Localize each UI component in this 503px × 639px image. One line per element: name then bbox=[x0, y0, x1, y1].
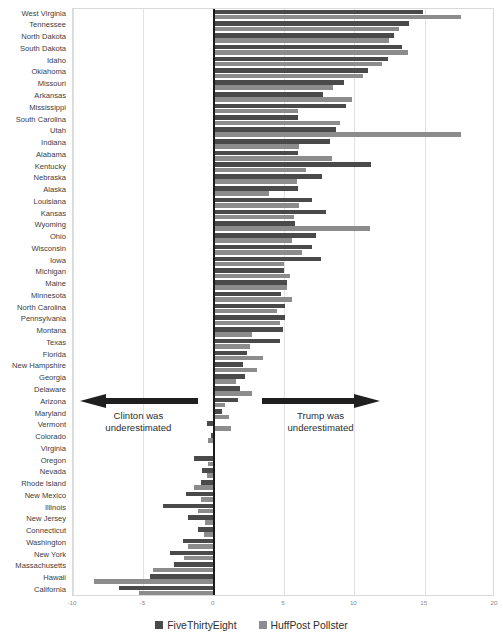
bar-fivethirtyeight bbox=[214, 80, 345, 85]
bar-huffpost-pollster bbox=[214, 426, 231, 431]
bar-huffpost-pollster bbox=[214, 121, 341, 126]
y-axis-label: Colorado bbox=[35, 433, 66, 441]
bar-row bbox=[73, 103, 493, 115]
bar-fivethirtyeight bbox=[214, 162, 372, 167]
bar-row bbox=[73, 44, 493, 56]
y-axis-label: North Carolina bbox=[17, 304, 66, 312]
bar-huffpost-pollster bbox=[214, 250, 303, 255]
bar-huffpost-pollster bbox=[214, 356, 263, 361]
bar-huffpost-pollster bbox=[214, 379, 237, 384]
y-axis-label: New Jersey bbox=[26, 515, 66, 523]
bar-fivethirtyeight bbox=[214, 221, 296, 226]
bar-huffpost-pollster bbox=[214, 144, 300, 149]
bar-huffpost-pollster bbox=[214, 62, 383, 67]
bar-huffpost-pollster bbox=[214, 368, 258, 373]
x-tick-label--5: -5 bbox=[140, 599, 146, 606]
plot-area: Clinton was underestimated Trump was und… bbox=[72, 8, 494, 596]
bar-row bbox=[73, 197, 493, 209]
legend-swatch-fivethirtyeight bbox=[155, 621, 163, 629]
bar-row bbox=[73, 68, 493, 80]
bar-huffpost-pollster bbox=[214, 297, 293, 302]
x-tick-label-20: 20 bbox=[491, 599, 498, 606]
bar-fivethirtyeight bbox=[214, 257, 321, 262]
bar-fivethirtyeight bbox=[214, 104, 346, 109]
bar-huffpost-pollster bbox=[214, 238, 293, 243]
bar-fivethirtyeight bbox=[188, 515, 213, 520]
bar-row bbox=[73, 538, 493, 550]
bar-fivethirtyeight bbox=[214, 92, 324, 97]
y-axis-label: Rhode Island bbox=[21, 480, 66, 488]
bar-row bbox=[73, 115, 493, 127]
y-axis-label: Texas bbox=[46, 339, 66, 347]
y-axis-label: Nebraska bbox=[34, 174, 67, 182]
bar-huffpost-pollster bbox=[214, 226, 370, 231]
y-axis-label: Wisconsin bbox=[31, 245, 66, 253]
y-axis-label: Alabama bbox=[36, 151, 66, 159]
bar-fivethirtyeight bbox=[214, 233, 317, 238]
y-axis-label: Maryland bbox=[35, 410, 66, 418]
annotation-line-2: underestimated bbox=[80, 422, 197, 434]
y-axis-label: Hawaii bbox=[43, 574, 66, 582]
bar-row bbox=[73, 374, 493, 386]
bar-huffpost-pollster bbox=[214, 191, 269, 196]
bar-fivethirtyeight bbox=[214, 374, 245, 379]
x-axis: -10-505101520 bbox=[72, 597, 494, 611]
bar-row bbox=[73, 350, 493, 362]
y-axis-label: Michigan bbox=[36, 268, 66, 276]
bar-huffpost-pollster bbox=[184, 556, 214, 561]
bar-row bbox=[73, 291, 493, 303]
bar-huffpost-pollster bbox=[198, 509, 213, 514]
legend-label: HuffPost Pollster bbox=[271, 620, 348, 631]
bar-fivethirtyeight bbox=[186, 492, 214, 497]
bar-fivethirtyeight bbox=[194, 456, 214, 461]
bar-huffpost-pollster bbox=[94, 579, 214, 584]
bar-fivethirtyeight bbox=[214, 10, 424, 15]
y-axis-label: Indiana bbox=[41, 139, 66, 147]
bar-row bbox=[73, 315, 493, 327]
bar-fivethirtyeight bbox=[150, 574, 213, 579]
annotation-line-2: underestimated bbox=[259, 422, 383, 434]
bar-row bbox=[73, 80, 493, 92]
bar-huffpost-pollster bbox=[214, 50, 408, 55]
bar-fivethirtyeight bbox=[214, 304, 286, 309]
bar-row bbox=[73, 56, 493, 68]
legend: FiveThirtyEightHuffPost Pollster bbox=[0, 616, 503, 634]
y-axis-label: New York bbox=[34, 551, 66, 559]
legend-item[interactable]: FiveThirtyEight bbox=[155, 620, 236, 631]
legend-item[interactable]: HuffPost Pollster bbox=[259, 620, 348, 631]
y-axis-label: Missouri bbox=[38, 80, 66, 88]
bar-row bbox=[73, 268, 493, 280]
y-axis-label: Louisiana bbox=[33, 198, 66, 206]
bar-row bbox=[73, 327, 493, 339]
left-arrow-icon bbox=[80, 394, 197, 408]
bar-row bbox=[73, 303, 493, 315]
bar-fivethirtyeight bbox=[214, 115, 298, 120]
bar-fivethirtyeight bbox=[198, 527, 213, 532]
bar-row bbox=[73, 491, 493, 503]
bar-row bbox=[73, 209, 493, 221]
y-axis-label: South Carolina bbox=[16, 116, 66, 124]
bar-huffpost-pollster bbox=[214, 132, 462, 137]
bar-fivethirtyeight bbox=[163, 504, 214, 509]
bar-huffpost-pollster bbox=[214, 332, 252, 337]
bar-huffpost-pollster bbox=[214, 97, 352, 102]
bar-row bbox=[73, 585, 493, 596]
y-axis-category-labels: West VirginiaTennesseeNorth DakotaSouth … bbox=[0, 8, 69, 596]
bar-row bbox=[73, 338, 493, 350]
y-axis-label: Delaware bbox=[34, 386, 66, 394]
bar-huffpost-pollster bbox=[188, 544, 213, 549]
y-axis-label: Kansas bbox=[41, 210, 66, 218]
bar-fivethirtyeight bbox=[214, 268, 284, 273]
bar-row bbox=[73, 573, 493, 585]
bar-row bbox=[73, 162, 493, 174]
bar-huffpost-pollster bbox=[214, 85, 334, 90]
y-axis-label: Mississippi bbox=[29, 104, 66, 112]
bar-fivethirtyeight bbox=[214, 210, 327, 215]
bar-huffpost-pollster bbox=[214, 262, 284, 267]
bar-row bbox=[73, 444, 493, 456]
bar-fivethirtyeight bbox=[214, 398, 238, 403]
bar-fivethirtyeight bbox=[214, 186, 298, 191]
y-axis-label: North Dakota bbox=[21, 33, 66, 41]
bar-fivethirtyeight bbox=[214, 57, 388, 62]
annotation-line-1: Trump was bbox=[259, 410, 383, 422]
